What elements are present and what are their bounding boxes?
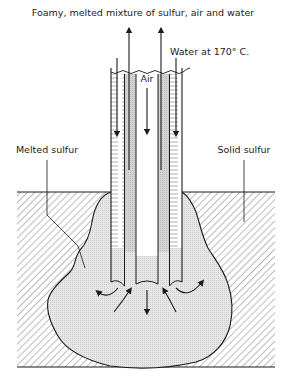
frasch-process-diagram: Foamy, melted mixture of sulfur, air and… [0,0,286,377]
sulfur-annulus-right [158,74,169,252]
sulfur-annulus-left [125,74,136,252]
air-label: Air [140,73,153,84]
solid-sulfur-label: Solid sulfur [217,144,270,155]
melted-sulfur-label: Melted sulfur [16,144,78,155]
water-in-label: Water at 170° C. [170,46,249,57]
title-label: Foamy, melted mixture of sulfur, air and… [32,7,254,18]
